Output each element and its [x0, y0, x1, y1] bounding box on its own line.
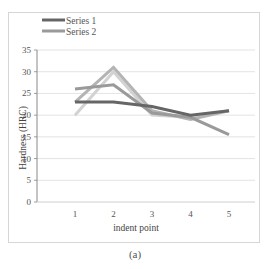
y-tick-label: 25: [22, 88, 32, 98]
series-lines: [75, 67, 229, 134]
line-chart: 0510152025303512345 Series 1Series 2 ind…: [9, 13, 261, 244]
figure-caption: (a): [0, 248, 270, 260]
y-tick-label: 5: [27, 175, 32, 185]
y-tick-label: 35: [22, 45, 32, 55]
x-tick-label: 1: [73, 209, 78, 219]
x-tick-label: 5: [227, 209, 232, 219]
x-tick-label: 3: [150, 209, 155, 219]
legend-label: Series 1: [66, 16, 97, 26]
y-tick-label: 30: [22, 67, 32, 77]
x-tick-label: 4: [188, 209, 193, 219]
chart-frame: 0510152025303512345 Series 1Series 2 ind…: [8, 12, 260, 243]
gridlines: [37, 50, 255, 180]
legend-label: Series 2: [66, 27, 97, 37]
y-tick-label: 0: [27, 197, 32, 207]
x-tick-label: 2: [111, 209, 116, 219]
x-axis-title: indent point: [113, 223, 159, 233]
y-axis-title: Hardness (HRC): [18, 106, 29, 170]
legend: Series 1Series 2: [42, 16, 97, 37]
